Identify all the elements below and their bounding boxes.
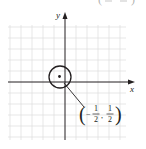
label-close-paren: ) — [115, 103, 122, 126]
top-cut-label: ( ) — [98, 0, 135, 6]
label-y-denominator: 2 — [108, 115, 112, 124]
top-cut-close-paren: ) — [131, 0, 135, 6]
label-x-numerator: 1 — [94, 104, 98, 113]
y-axis-label: y — [55, 10, 60, 20]
label-y-numerator: 1 — [108, 104, 112, 113]
y-axis: y — [55, 10, 68, 140]
center-coordinate-label: ( − 1 2 , 1 2 ) — [79, 103, 122, 126]
x-axis-label: x — [129, 84, 134, 94]
label-comma: , — [101, 111, 103, 120]
y-axis-arrow-icon — [63, 12, 68, 19]
center-point — [58, 75, 61, 78]
label-x-denominator: 2 — [94, 115, 98, 124]
coordinate-plane-figure: x y ( − 1 2 , 1 2 ) ( ) — [0, 0, 146, 149]
top-cut-open-paren: ( — [98, 0, 102, 6]
label-open-paren: ( — [79, 103, 86, 126]
label-minus: − — [86, 110, 91, 119]
